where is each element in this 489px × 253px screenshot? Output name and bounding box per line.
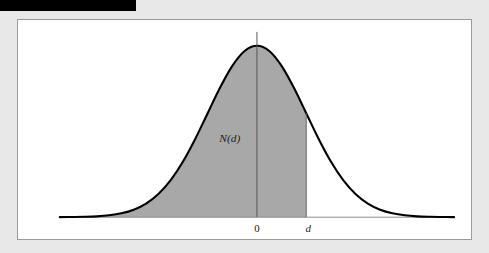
x-tick-label-d: d — [305, 222, 311, 234]
redaction-bar — [0, 0, 136, 11]
area-label-nd: N(d) — [218, 132, 240, 145]
normal-distribution-chart: N(d) 0 d — [18, 20, 471, 239]
x-tick-label-zero: 0 — [254, 222, 260, 234]
shaded-area-region — [60, 46, 306, 217]
figure-panel: N(d) 0 d — [17, 19, 472, 240]
